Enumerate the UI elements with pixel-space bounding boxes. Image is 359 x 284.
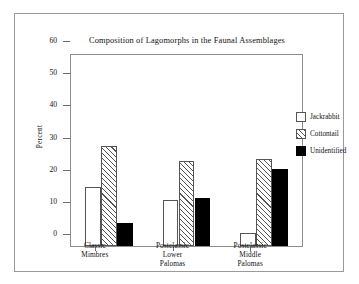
x-axis-group-label-line: Palomas (133, 259, 213, 268)
x-axis-group-label-line: Mimbres (55, 250, 135, 259)
plot-area (70, 54, 303, 247)
y-axis-tick-label: 50 (37, 69, 57, 77)
y-axis-tick (63, 138, 70, 139)
y-axis-tick-label: 40 (37, 101, 57, 109)
bar-unidentified-group-3 (272, 169, 288, 246)
y-axis-tick (63, 170, 70, 171)
x-axis-group-label-line: Postclassic (210, 241, 290, 250)
x-axis-group-label-line: Middle (210, 250, 290, 259)
x-axis-group-label: PostclassicMiddlePalomas (210, 241, 290, 269)
bar-unidentified-group-2 (195, 198, 211, 246)
bar-cottontail-group-1 (101, 146, 117, 246)
y-axis-tick-label: 0 (37, 230, 57, 238)
y-axis-tick (63, 41, 70, 42)
legend-label: Jackrabbit (310, 112, 340, 122)
y-axis-tick (63, 202, 70, 203)
y-axis-tick-label: 10 (37, 198, 57, 206)
figure-frame: Composition of Lagomorphs in the Faunal … (14, 13, 344, 272)
y-axis-tick-label: 20 (37, 166, 57, 174)
y-axis-tick (63, 105, 70, 106)
bar-jackrabbit-group-1 (85, 187, 101, 246)
y-axis-tick-label: 30 (37, 134, 57, 142)
y-axis-tick (63, 73, 70, 74)
x-axis-group-label-line: Postclassic (133, 241, 213, 250)
x-axis-group-label-line: Classic (55, 241, 135, 250)
y-axis-tick-label: 60 (37, 37, 57, 45)
legend-label: Cottontail (310, 129, 339, 139)
x-axis-group-label: ClassicMimbres (55, 241, 135, 259)
legend-label: Unidentified (310, 146, 346, 156)
x-axis-group-label-line: Palomas (210, 259, 290, 268)
bar-cottontail-group-2 (179, 161, 195, 246)
page-title: Composition of Lagomorphs in the Faunal … (70, 36, 304, 46)
legend-swatch-cottontail (296, 129, 306, 139)
legend-swatch-unidentified (296, 146, 306, 156)
bar-cottontail-group-3 (256, 159, 272, 246)
x-axis-group-label-line: Lower (133, 250, 213, 259)
legend-swatch-jackrabbit (296, 112, 306, 122)
y-axis-tick (63, 234, 70, 235)
x-axis-group-label: PostclassicLowerPalomas (133, 241, 213, 269)
bar-jackrabbit-group-2 (163, 200, 179, 246)
